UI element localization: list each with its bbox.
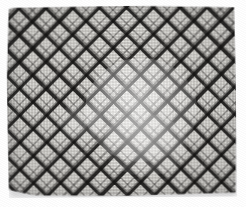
quilt-photograph: A flat-laid black and white quilt photog…	[0, 0, 246, 207]
crosshatch-weave	[6, 5, 236, 197]
screenshot-canvas: A flat-laid black and white quilt photog…	[0, 0, 246, 207]
quilt-cloth	[6, 5, 236, 197]
weave-softening-overlay	[6, 5, 236, 197]
